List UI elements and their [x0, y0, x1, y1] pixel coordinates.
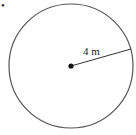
radius-label: 4 m: [83, 45, 100, 57]
circle-diagram: • 4 m: [0, 0, 136, 135]
corner-mark: •: [1, 0, 5, 11]
center-point: [68, 63, 73, 68]
radius-line: [71, 49, 131, 66]
